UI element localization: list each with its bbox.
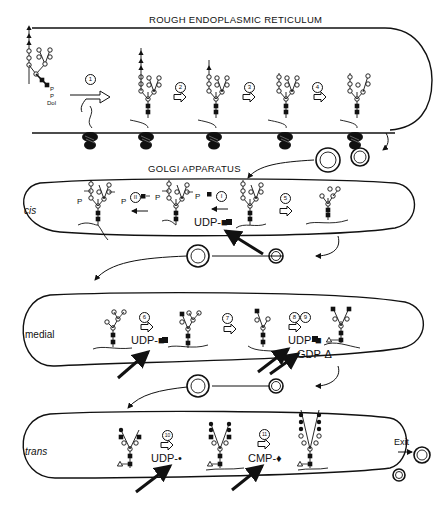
step-7: 7	[222, 313, 233, 324]
trans-label: trans	[25, 446, 47, 457]
medial-cisterna	[23, 293, 423, 366]
dol-label: Dol	[47, 100, 56, 106]
exit-label: Exit	[394, 437, 409, 447]
phosphate-label-4: P	[195, 192, 200, 201]
step-II: II	[130, 192, 141, 203]
step-9: 9	[300, 312, 311, 323]
glycosylation-diagram	[0, 0, 443, 506]
step-5: 5	[280, 193, 291, 204]
golgi-title: GOLGI APPARATUS	[148, 163, 241, 174]
trans-cmp-sialic-acid: CMP-♦	[248, 452, 282, 464]
dol-p2: P	[50, 93, 54, 99]
cis-udp-glcnac: UDP-■	[194, 216, 228, 228]
medial-udp-glcnac-6: UDP-■	[131, 334, 165, 346]
phosphate-label-3: P	[155, 193, 160, 202]
step-I: I	[216, 191, 227, 202]
cis-label: cis	[24, 205, 36, 216]
trans-udp-galactose: UDP-•	[151, 452, 182, 464]
step-8: 8	[289, 312, 300, 323]
dol-p1: P	[50, 86, 54, 92]
step-10: 10	[162, 430, 173, 441]
medial-gdp-fucose: GDP-Δ	[297, 348, 332, 360]
step-6: 6	[139, 312, 150, 323]
step-1: 1	[85, 74, 96, 85]
medial-udp-glcnac-8: UDP-■	[288, 334, 322, 346]
step-11: 11	[259, 429, 270, 440]
phosphate-label-1: P	[77, 197, 82, 206]
phosphate-label-2: P	[121, 197, 126, 206]
step-2: 2	[175, 82, 186, 93]
precursor-oligosaccharide	[26, 25, 52, 87]
medial-label: medial	[25, 329, 54, 340]
step-4: 4	[312, 82, 323, 93]
step-3: 3	[244, 82, 255, 93]
rer-title: ROUGH ENDOPLASMIC RETICULUM	[149, 14, 322, 25]
